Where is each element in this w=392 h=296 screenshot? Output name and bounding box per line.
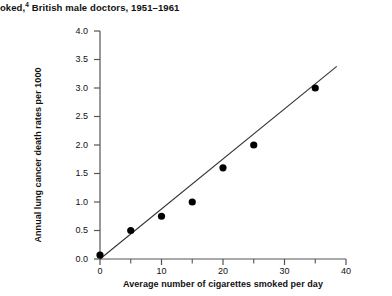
y-tick-label: 2.5 [62, 112, 88, 121]
y-tick-label: 1.5 [62, 169, 88, 178]
data-point [127, 227, 134, 234]
x-tick-label: 20 [211, 267, 235, 276]
y-tick-label: 3.5 [62, 55, 88, 64]
y-tick-label: 3.0 [62, 84, 88, 93]
data-point [219, 164, 226, 171]
x-tick-label: 0 [88, 267, 112, 276]
chart-figure: noked,4 British male doctors, 1951–1961 … [0, 0, 392, 296]
x-tick-label: 40 [334, 267, 358, 276]
y-tick-label: 2.0 [62, 141, 88, 150]
plot-area [0, 0, 392, 296]
data-point [96, 251, 103, 258]
x-tick-label: 30 [273, 267, 297, 276]
y-tick-label: 4.0 [62, 27, 88, 36]
x-tick-label: 10 [150, 267, 174, 276]
regression-line-group [100, 66, 337, 259]
regression-line [100, 66, 337, 259]
data-point [189, 198, 196, 205]
data-point [158, 213, 165, 220]
data-point [312, 84, 319, 91]
axis-lines [100, 31, 346, 259]
y-tick-label: 1.0 [62, 198, 88, 207]
y-axis-ticks [94, 31, 100, 259]
y-tick-label: 0.5 [62, 226, 88, 235]
x-axis-ticks [100, 259, 346, 265]
y-tick-label: 0.0 [62, 255, 88, 264]
data-point [250, 141, 257, 148]
